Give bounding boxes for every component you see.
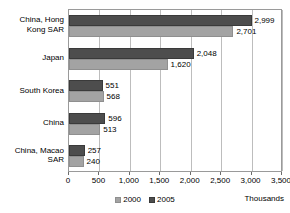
category-label: China, Macao SAR [0, 146, 64, 165]
legend-item-2000: 2000 [115, 195, 141, 205]
x-axis-tick [129, 172, 130, 175]
bar-value-label: 240 [84, 156, 100, 167]
table-row: 2,0481,620 [69, 43, 281, 76]
x-axis-tick [251, 172, 252, 175]
bar-value-label: 513 [100, 124, 116, 135]
x-axis-tick [190, 172, 191, 175]
category-label: Japan [0, 53, 64, 63]
bar-2005 [69, 15, 252, 26]
x-axis-tick-label: 3,500 [271, 176, 290, 186]
bar-value-label: 2,999 [252, 15, 275, 26]
table-row: 2,9992,701 [69, 10, 281, 43]
x-axis-tick [159, 172, 160, 175]
bar-2000 [69, 26, 233, 37]
bar-value-label: 596 [105, 113, 121, 124]
bar-value-label: 2,048 [194, 48, 217, 59]
x-axis-tick-label: 500 [92, 176, 105, 186]
x-axis-tick-label: 2,500 [210, 176, 230, 186]
legend-label: 2000 [123, 195, 141, 205]
category-label: China [0, 118, 64, 128]
bar-chart: 2,9992,7012,0481,620551568596513257240 C… [0, 0, 290, 213]
bar-value-label: 551 [103, 80, 119, 91]
bar-2000 [69, 59, 168, 70]
x-axis-tick-label: 1,500 [149, 176, 169, 186]
bar-2000 [69, 156, 84, 167]
x-axis-tick [68, 172, 69, 175]
x-axis-tick [98, 172, 99, 175]
category-label: China, Hong Kong SAR [0, 15, 64, 34]
x-axis-tick [281, 172, 282, 175]
category-label: South Korea [0, 86, 64, 96]
bar-2000 [69, 91, 104, 102]
legend-label: 2005 [157, 195, 175, 205]
table-row: 257240 [69, 140, 281, 173]
bar-2005 [69, 145, 85, 156]
gridline [282, 10, 283, 171]
bar-value-label: 568 [104, 91, 120, 102]
plot-area: 2,9992,7012,0481,620551568596513257240 [68, 9, 282, 172]
x-axis-tick-label: 1,000 [119, 176, 139, 186]
bar-2005 [69, 48, 194, 59]
bar-value-label: 257 [85, 145, 101, 156]
legend-swatch-icon [115, 197, 121, 203]
table-row: 551568 [69, 75, 281, 108]
x-axis-tick-label: 0 [66, 176, 70, 186]
x-axis-tick-label: 2,000 [180, 176, 200, 186]
x-axis-tick [220, 172, 221, 175]
bar-2005 [69, 113, 105, 124]
x-axis: 05001,0001,5002,0002,5003,0003,500 [68, 172, 282, 176]
bar-value-label: 1,620 [168, 59, 191, 70]
bar-2005 [69, 80, 103, 91]
x-axis-tick-label: 3,000 [241, 176, 261, 186]
legend-swatch-icon [149, 197, 155, 203]
bar-2000 [69, 124, 100, 135]
units-label: Thousands [244, 194, 284, 204]
table-row: 596513 [69, 108, 281, 141]
legend-item-2005: 2005 [149, 195, 175, 205]
bar-value-label: 2,701 [233, 26, 256, 37]
